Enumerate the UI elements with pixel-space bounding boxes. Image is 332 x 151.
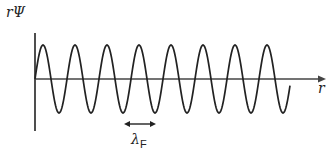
y-axis-label: rΨ [6, 4, 25, 20]
plot-canvas [0, 0, 332, 151]
wavelength-symbol: λ [131, 131, 140, 147]
wavefunction-diagram: rΨ r λF [0, 0, 332, 151]
wavelength-arrow-icon [124, 121, 156, 127]
wavelength-subscript: F [140, 138, 147, 150]
wavelength-label: λF [131, 131, 147, 150]
x-axis-label: r [318, 80, 325, 96]
